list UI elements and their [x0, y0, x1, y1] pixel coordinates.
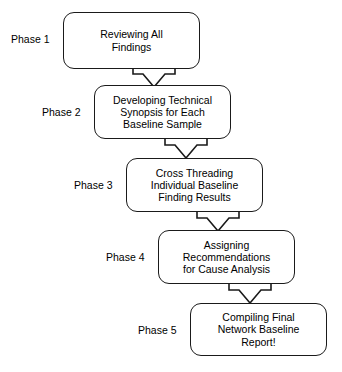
cropped-caption-fragment [8, 364, 334, 371]
flow-node-phase-5-label: Compiling Final Network Baseline Report! [214, 311, 304, 348]
flow-node-phase-3-label: Cross Threading Individual Baseline Find… [147, 167, 243, 204]
flow-node-phase-4[interactable]: Assigning Recommendations for Cause Anal… [158, 230, 295, 284]
flow-node-phase-2[interactable]: Developing Technical Synopsis for Each B… [94, 85, 231, 139]
flow-node-phase-1[interactable]: Reviewing All Findings [63, 12, 200, 69]
flow-node-phase-2-label: Developing Technical Synopsis for Each B… [109, 94, 216, 131]
flow-node-phase-4-label: Assigning Recommendations for Cause Anal… [179, 239, 275, 276]
flow-node-phase-1-label: Reviewing All Findings [96, 28, 166, 52]
phase-label-2: Phase 2 [42, 106, 81, 118]
phase-label-3: Phase 3 [74, 179, 113, 191]
connector-phase-4-to-phase-5 [227, 282, 273, 305]
phase-label-5: Phase 5 [138, 324, 177, 336]
flow-node-phase-5[interactable]: Compiling Final Network Baseline Report! [190, 303, 327, 356]
phase-label-1: Phase 1 [11, 33, 50, 45]
flowchart-canvas: Phase 1 Phase 2 Phase 3 Phase 4 Phase 5 … [0, 0, 342, 372]
phase-label-4: Phase 4 [106, 251, 145, 263]
connector-phase-2-to-phase-3 [163, 137, 209, 160]
flow-node-phase-3[interactable]: Cross Threading Individual Baseline Find… [126, 158, 263, 212]
